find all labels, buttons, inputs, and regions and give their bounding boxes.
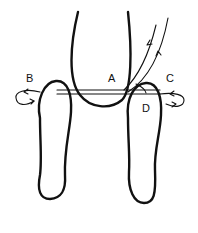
label-b: B (26, 72, 33, 84)
left-leg-loop (39, 81, 71, 199)
label-d: D (142, 102, 150, 114)
right-leg-loop (128, 83, 161, 203)
diagram-svg: B A C D (0, 0, 198, 233)
label-a: A (108, 72, 116, 84)
diagram-canvas: B A C D (0, 0, 198, 233)
label-c: C (166, 72, 174, 84)
center-u-shape (72, 12, 131, 106)
arrow-up-icon (156, 51, 161, 56)
left-curl-arrow (16, 89, 40, 104)
right-curl-arrow (160, 91, 184, 107)
